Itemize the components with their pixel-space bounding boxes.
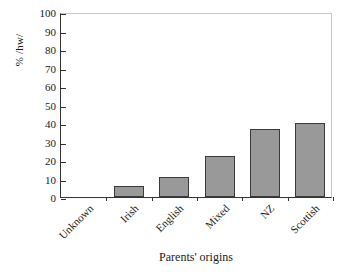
y-tick-label: 20 <box>30 155 56 168</box>
bar <box>114 186 144 197</box>
y-tick-label: 30 <box>30 136 56 149</box>
y-tick-label: 40 <box>30 118 56 131</box>
y-axis-tick-labels: 0102030405060708090100 <box>30 6 56 198</box>
plot-area <box>60 13 332 198</box>
y-tick-label: 10 <box>30 173 56 186</box>
bar <box>250 129 280 197</box>
bars-layer <box>61 14 331 197</box>
bar <box>295 123 325 197</box>
bar-chart-figure: % /hw/ 0102030405060708090100 UnknownIri… <box>0 0 348 272</box>
bar <box>205 156 235 197</box>
bar <box>159 177 189 197</box>
y-tick-label: 70 <box>30 62 56 75</box>
y-tick-label: 0 <box>30 192 56 205</box>
x-tick-mark <box>333 197 334 201</box>
y-axis-title: % /hw/ <box>10 0 28 155</box>
y-tick-label: 60 <box>30 81 56 94</box>
y-tick-label: 50 <box>30 99 56 112</box>
y-tick-label: 90 <box>30 25 56 38</box>
y-tick-label: 80 <box>30 44 56 57</box>
x-axis-tick-labels: UnknownIrishEnglishMixedNZScottish <box>60 198 332 250</box>
x-axis-title: Parents' origins <box>60 250 332 265</box>
y-tick-label: 100 <box>30 7 56 20</box>
